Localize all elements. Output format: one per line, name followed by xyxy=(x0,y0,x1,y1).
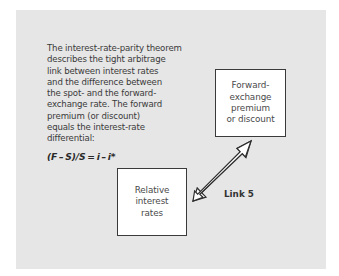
node-label: Forward- exchange premium or discount xyxy=(226,80,274,126)
parity-formula: (F – S)/S = i – i* xyxy=(47,151,115,162)
link-label: Link 5 xyxy=(224,189,254,199)
description-text: The interest-rate-parity theorem describ… xyxy=(47,43,197,145)
node-label: Relative interest rates xyxy=(135,185,170,219)
node-forward-exchange-premium: Forward- exchange premium or discount xyxy=(215,69,286,137)
node-relative-interest-rates: Relative interest rates xyxy=(117,168,187,236)
